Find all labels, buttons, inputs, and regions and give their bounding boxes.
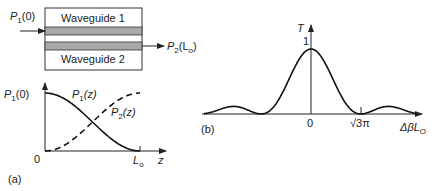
- caption-b: (b): [201, 123, 214, 135]
- waveguide-2-core: [45, 42, 142, 50]
- figure: Waveguide 1 Waveguide 2 P1(0) P2(Lo) P1(…: [0, 0, 435, 191]
- t-one-label: 1: [303, 35, 309, 47]
- y-start-label: P1(0): [4, 88, 29, 103]
- t-axis-label: T: [297, 22, 305, 34]
- transmission-plot: T 1 0 √3π ΔβLO (b): [201, 22, 426, 136]
- transmission-curve: [204, 49, 416, 114]
- sqrt3pi-label: √3π: [350, 117, 370, 129]
- p2-curve-label: P2(z): [111, 106, 136, 121]
- delta-beta-label: ΔβLO: [399, 121, 426, 136]
- zero-tick-label: 0: [307, 117, 313, 129]
- waveguide-1-core: [45, 27, 142, 35]
- origin-label: 0: [34, 153, 40, 165]
- p1-curve: [45, 93, 140, 151]
- waveguide-1-label: Waveguide 1: [61, 12, 125, 24]
- lo-label: Lo: [133, 154, 144, 169]
- coupler-diagram: Waveguide 1 Waveguide 2 P1(0) P2(Lo): [10, 8, 197, 70]
- output-power-label: P2(Lo): [167, 40, 197, 55]
- power-transfer-plot: P1(0) P1(z) P2(z) 0 Lo z (a): [4, 83, 166, 185]
- input-power-label: P1(0): [10, 10, 35, 25]
- waveguide-2-label: Waveguide 2: [61, 53, 125, 65]
- p1-curve-label: P1(z): [72, 88, 97, 103]
- caption-a: (a): [8, 173, 21, 185]
- z-axis-label: z: [157, 154, 164, 166]
